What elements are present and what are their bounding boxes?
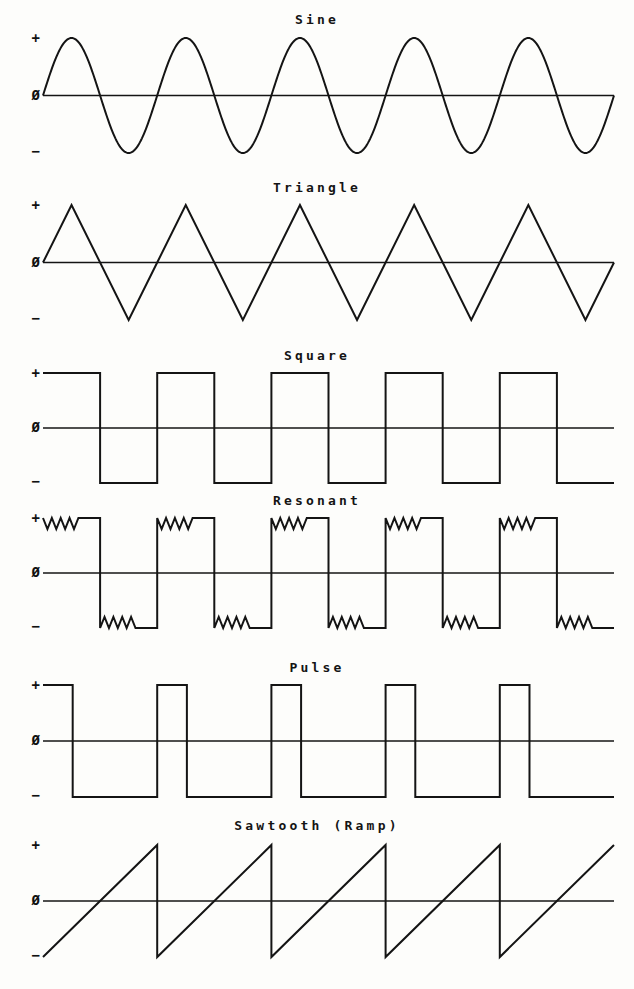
waveform-panel-square: Square+Ø− — [0, 348, 634, 497]
axis-tick-zero-square: Ø — [0, 420, 40, 434]
waveform-panel-sawtooth: Sawtooth (Ramp)+Ø− — [0, 818, 634, 971]
waveform-panel-triangle: Triangle+Ø− — [0, 180, 634, 334]
waveform-title-resonant: Resonant — [0, 493, 634, 508]
waveform-title-triangle: Triangle — [0, 180, 634, 195]
waveform-panel-pulse: Pulse+Ø− — [0, 660, 634, 811]
axis-tick-zero-pulse: Ø — [0, 733, 40, 747]
waveform-plot-sine — [43, 38, 614, 153]
axis-tick-plus-pulse: + — [0, 678, 40, 692]
waveform-panel-resonant: Resonant+Ø− — [0, 493, 634, 642]
axis-tick-plus-triangle: + — [0, 198, 40, 212]
axis-tick-minus-triangle: − — [0, 311, 40, 325]
axis-tick-minus-pulse: − — [0, 788, 40, 802]
axis-tick-zero-resonant: Ø — [0, 565, 40, 579]
waveform-plot-pulse — [43, 685, 614, 797]
waveform-plot-resonant — [43, 518, 614, 628]
axis-tick-zero-sawtooth: Ø — [0, 893, 40, 907]
axis-tick-minus-resonant: − — [0, 619, 40, 633]
waveform-title-sawtooth: Sawtooth (Ramp) — [0, 818, 634, 833]
axis-tick-plus-resonant: + — [0, 511, 40, 525]
axis-tick-plus-sine: + — [0, 31, 40, 45]
waveform-title-square: Square — [0, 348, 634, 363]
waveform-plot-triangle — [43, 205, 614, 320]
waveform-title-sine: Sine — [0, 12, 634, 27]
waveform-title-pulse: Pulse — [0, 660, 634, 675]
axis-tick-minus-sawtooth: − — [0, 948, 40, 962]
axis-tick-plus-sawtooth: + — [0, 838, 40, 852]
axis-tick-plus-square: + — [0, 366, 40, 380]
axis-tick-minus-sine: − — [0, 144, 40, 158]
waveform-plot-sawtooth — [43, 845, 614, 957]
axis-tick-minus-square: − — [0, 474, 40, 488]
axis-tick-zero-sine: Ø — [0, 88, 40, 102]
waveform-plot-square — [43, 373, 614, 483]
axis-tick-zero-triangle: Ø — [0, 255, 40, 269]
waveform-panel-sine: Sine+Ø− — [0, 12, 634, 167]
waveform-sheet: Sine+Ø−Triangle+Ø−Square+Ø−Resonant+Ø−Pu… — [0, 0, 634, 989]
